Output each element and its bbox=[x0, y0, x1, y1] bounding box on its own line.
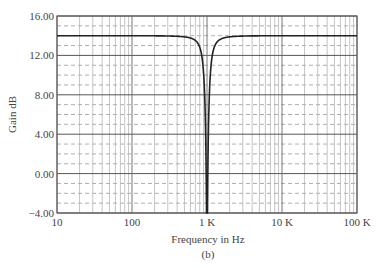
y-axis-tick-labels: −4.000.004.008.0012.0016.00 bbox=[29, 10, 55, 219]
y-tick-label: 12.00 bbox=[29, 49, 54, 61]
x-tick-label: 10 bbox=[52, 216, 64, 228]
x-tick-label: 10 K bbox=[271, 216, 293, 228]
gain-frequency-chart: −4.000.004.008.0012.0016.00 101001 K10 K… bbox=[0, 0, 379, 268]
x-tick-label: 100 K bbox=[343, 216, 370, 228]
x-tick-label: 100 bbox=[124, 216, 141, 228]
x-axis-label: Frequency in Hz bbox=[171, 233, 244, 245]
y-tick-label: 16.00 bbox=[29, 10, 54, 22]
x-axis-tick-labels: 101001 K10 K100 K bbox=[52, 216, 371, 228]
y-tick-label: 4.00 bbox=[35, 128, 55, 140]
y-axis-label: Gain dB bbox=[6, 96, 18, 133]
y-tick-label: 8.00 bbox=[35, 89, 55, 101]
y-tick-label: 0.00 bbox=[35, 168, 55, 180]
figure-subtitle: (b) bbox=[202, 248, 215, 261]
x-tick-label: 1 K bbox=[199, 216, 215, 228]
